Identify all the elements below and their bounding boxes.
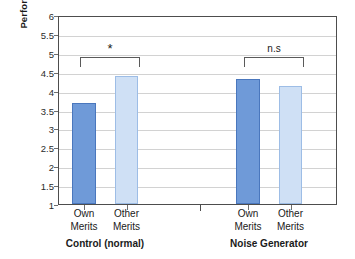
y-axis-tick-label: 5 bbox=[20, 48, 54, 59]
y-axis-tick-label: 4.5 bbox=[20, 67, 54, 78]
category-tick bbox=[127, 205, 128, 210]
gridline bbox=[59, 55, 336, 56]
y-axis-tick-label: 5.5 bbox=[20, 29, 54, 40]
bar-category-label: OwnMerits bbox=[70, 208, 97, 233]
bar-3 bbox=[236, 79, 260, 204]
category-separator bbox=[200, 205, 201, 211]
category-tick bbox=[291, 205, 292, 210]
group-label: Control (normal) bbox=[66, 238, 144, 249]
bar-4 bbox=[279, 86, 302, 204]
group-label: Noise Generator bbox=[230, 238, 308, 249]
category-tick bbox=[248, 205, 249, 210]
gridline bbox=[59, 36, 336, 37]
bar-1 bbox=[72, 103, 96, 204]
significance-bracket bbox=[80, 57, 140, 67]
significance-label: n.s bbox=[267, 43, 280, 54]
y-axis-tick-label: 3 bbox=[20, 124, 54, 135]
y-axis-tick-label: 2.5 bbox=[20, 143, 54, 154]
y-axis-tick-labels: 65.554.543.532.521.51 bbox=[18, 0, 54, 259]
significance-bracket bbox=[244, 57, 304, 67]
bar-category-line2: Merits bbox=[70, 221, 97, 234]
y-axis-tick-mark bbox=[54, 205, 58, 206]
y-axis-tick-label: 3.5 bbox=[20, 105, 54, 116]
bar-chart: Performance 65.554.543.532.521.51 OwnMer… bbox=[0, 0, 355, 259]
y-axis-tick-label: 2 bbox=[20, 162, 54, 173]
y-axis-tick-label: 4 bbox=[20, 86, 54, 97]
bar-category-label: OwnMerits bbox=[234, 208, 261, 233]
bar-category-line2: Merits bbox=[234, 221, 261, 234]
plot-area bbox=[58, 16, 337, 205]
category-tick bbox=[84, 205, 85, 210]
y-axis-tick-label: 1.5 bbox=[20, 181, 54, 192]
y-axis-tick-label: 6 bbox=[20, 11, 54, 22]
bar-2 bbox=[115, 76, 138, 204]
bar-category-label: OtherMerits bbox=[113, 208, 140, 233]
gridline bbox=[59, 74, 336, 75]
significance-label: * bbox=[107, 44, 112, 54]
y-axis-tick-label: 1 bbox=[20, 200, 54, 211]
bar-category-line2: Merits bbox=[277, 221, 304, 234]
bar-category-label: OtherMerits bbox=[277, 208, 304, 233]
bar-category-line2: Merits bbox=[113, 221, 140, 234]
